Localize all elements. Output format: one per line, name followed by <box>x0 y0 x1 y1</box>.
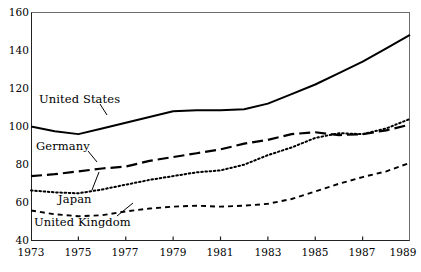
series-line-japan <box>31 119 410 193</box>
series-lines <box>31 35 410 216</box>
series-line-united-states <box>31 35 410 134</box>
series-and-ticks-layer <box>0 0 421 272</box>
series-label-germany: Germany <box>36 139 90 153</box>
leader-line-japan <box>92 172 99 190</box>
label-leader-lines <box>88 104 133 216</box>
series-label-united-kingdom: United Kingdom <box>34 215 131 229</box>
line-chart: 160 140 120 100 80 60 40 1973 1975 1977 … <box>0 0 421 272</box>
series-label-japan: Japan <box>58 192 92 206</box>
x-axis-ticks <box>78 237 362 242</box>
series-label-united-states: United States <box>39 92 120 106</box>
